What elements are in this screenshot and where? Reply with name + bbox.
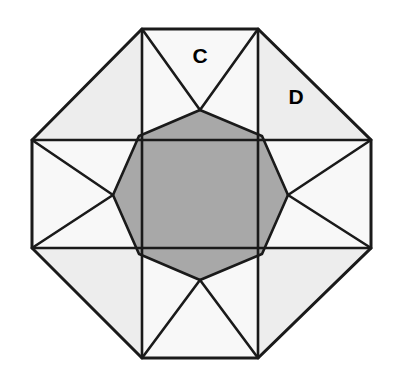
octagon-star-diagram: CD <box>0 0 393 380</box>
figure-root: CD <box>0 0 393 380</box>
region-label-c: C <box>192 44 207 67</box>
inner-octagon <box>113 110 288 280</box>
region-label-d: D <box>288 85 303 108</box>
